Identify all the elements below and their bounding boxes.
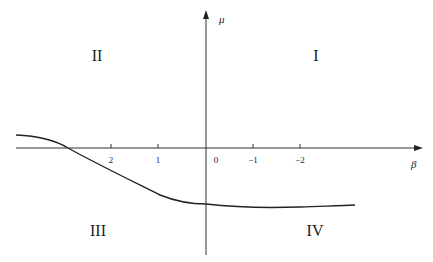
tick-label-0: 0 — [214, 155, 219, 165]
quadrant-label-III: III — [90, 222, 106, 239]
quadrant-label-IV: IV — [307, 222, 324, 239]
phase-diagram: 2 1 0 −1 −2 μ β II I III IV — [0, 0, 433, 262]
quadrant-label-I: I — [313, 47, 318, 64]
tick-label-neg2: −2 — [295, 155, 305, 165]
mu-axis-arrow-icon — [203, 10, 209, 19]
beta-axis-arrow-icon — [414, 145, 423, 151]
tick-label-1: 1 — [156, 155, 161, 165]
boundary-curve — [16, 135, 355, 208]
mu-axis-label: μ — [218, 13, 225, 25]
tick-label-neg1: −1 — [248, 155, 258, 165]
quadrant-label-II: II — [92, 47, 103, 64]
beta-axis-label: β — [410, 158, 417, 170]
tick-label-2: 2 — [109, 155, 114, 165]
